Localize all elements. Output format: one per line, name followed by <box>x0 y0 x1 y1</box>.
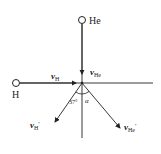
v-h-label: vH <box>51 71 60 82</box>
he-outgoing-arrow <box>82 83 120 128</box>
angle-alpha-label: α <box>85 97 89 105</box>
angle-37-label: 37° <box>69 99 78 105</box>
h-particle-icon <box>13 80 20 87</box>
he-particle-icon <box>79 17 86 24</box>
h-label: H <box>12 89 19 100</box>
v-he-label: vHe <box>90 67 101 78</box>
collision-point <box>81 82 84 85</box>
angle-arc-37 <box>76 92 82 94</box>
he-label: He <box>89 15 101 26</box>
angle-arc-alpha <box>82 91 89 94</box>
collision-diagram: He H vH vHe vH′ vHe′ 37° α <box>0 0 161 154</box>
v-h-prime-label: vH′ <box>30 120 40 131</box>
v-he-prime-label: vHe′ <box>124 122 137 133</box>
